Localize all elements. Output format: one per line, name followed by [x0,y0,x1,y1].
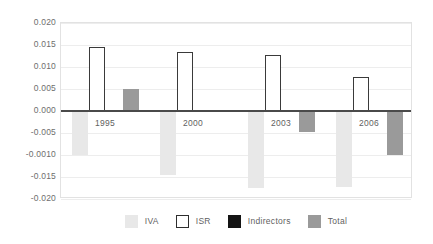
x-axis-category-label: 2006 [359,118,379,128]
gridline [61,177,411,178]
y-axis-tick-label: 0.010 [2,61,56,71]
plot-area: 1995200020032006 [60,22,412,198]
y-axis-tick-label: -0.020 [2,193,56,203]
isr-swatch [176,215,189,228]
y-axis-tick-label: 0.015 [2,39,56,49]
bar-total-1995 [123,89,139,111]
iva-swatch [125,215,138,228]
gridline [61,67,411,68]
bar-isr-1995 [89,47,105,111]
y-axis-tick-label: -0.005 [2,127,56,137]
y-axis-tick-label: -0.0010 [2,149,56,159]
y-axis-tick-label: 0.005 [2,83,56,93]
bar-isr-2006 [353,77,369,111]
y-axis-tick-label: 0.020 [2,17,56,27]
gridline [61,199,411,200]
bar-iva-1995 [72,111,88,155]
bar-isr-2003 [265,55,281,111]
bar-iva-2000 [160,111,176,175]
bar-chart: 0.0200.0150.0100.0050.000-0.005-0.0010-0… [0,0,433,244]
bar-isr-2000 [177,52,193,111]
y-axis-tick-label: -0.015 [2,171,56,181]
y-axis-tick-label: 0.000 [2,105,56,115]
x-axis-category-label: 2003 [271,118,291,128]
y-axis: 0.0200.0150.0100.0050.000-0.005-0.0010-0… [0,22,56,198]
legend-label: IVA [145,216,159,226]
legend-label: ISR [196,216,211,226]
gridline [61,155,411,156]
gridline [61,133,411,134]
bar-total-2003 [299,111,315,132]
bar-total-2006 [387,111,403,155]
gridline [61,23,411,24]
legend-item-isr[interactable]: ISR [176,215,211,228]
bar-iva-2003 [248,111,264,188]
x-axis-category-label: 2000 [183,118,203,128]
chart-legend: IVAISRIndirectorsTotal [60,210,412,232]
gridline [61,45,411,46]
x-axis-category-label: 1995 [95,118,115,128]
legend-item-total[interactable]: Total [308,215,347,228]
indirectors-swatch [228,215,241,228]
legend-label: Indirectors [248,216,291,226]
zero-axis-line [61,110,411,112]
legend-item-iva[interactable]: IVA [125,215,159,228]
bar-iva-2006 [336,111,352,187]
legend-item-indirectors[interactable]: Indirectors [228,215,291,228]
legend-label: Total [328,216,347,226]
total-swatch [308,215,321,228]
